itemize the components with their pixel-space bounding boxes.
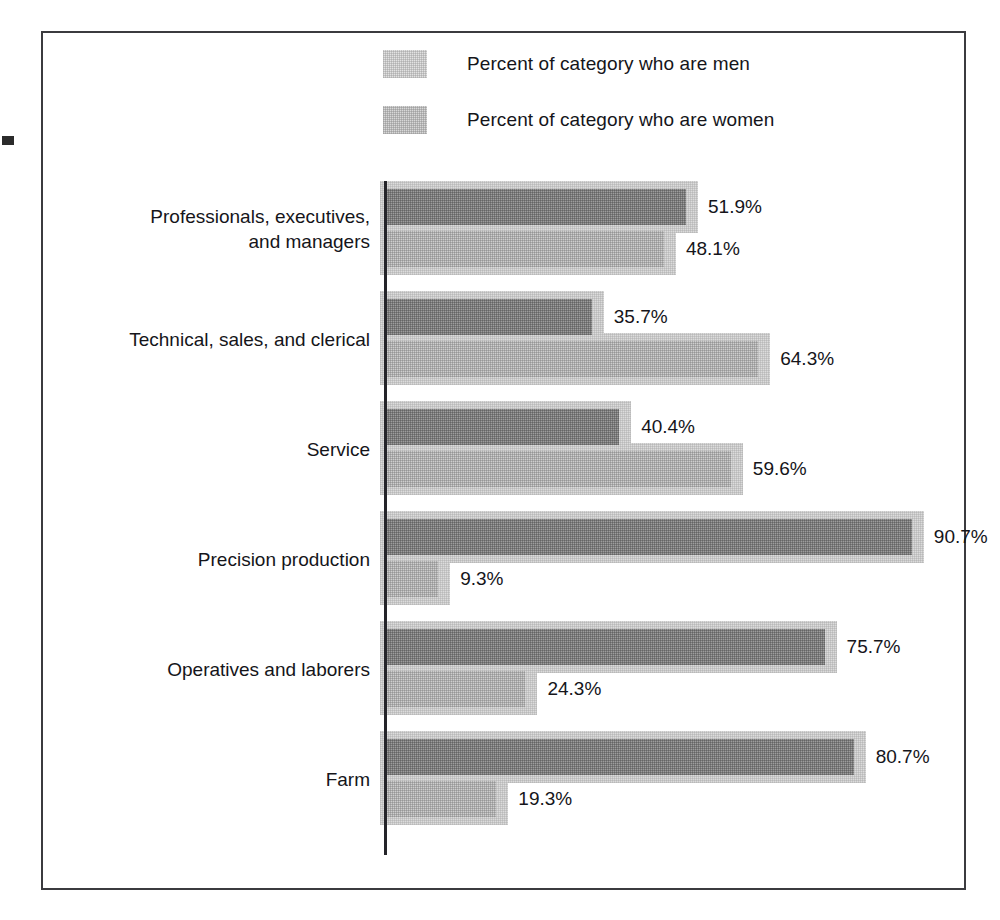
bar-women[interactable] — [384, 781, 496, 817]
category-label: Professionals, executives, and managers — [70, 204, 370, 254]
category-label: Farm — [70, 767, 370, 792]
bar-row-men: 51.9% — [384, 189, 966, 225]
bar-face — [384, 299, 592, 335]
bar-face — [384, 519, 912, 555]
bar-face — [384, 231, 664, 267]
bar-value-label: 19.3% — [518, 788, 572, 810]
bar-value-label: 9.3% — [460, 568, 503, 590]
bar-value-label: 80.7% — [876, 746, 930, 768]
bar-value-label: 24.3% — [547, 678, 601, 700]
bar-row-women: 59.6% — [384, 451, 966, 487]
legend-item-men: Percent of category who are men — [383, 36, 903, 92]
bar-face — [384, 739, 854, 775]
bar-row-men: 40.4% — [384, 409, 966, 445]
bar-men[interactable] — [384, 189, 686, 225]
bar-groups: Professionals, executives, and managers5… — [41, 181, 966, 861]
legend-label-men: Percent of category who are men — [467, 53, 750, 75]
category-axis-line — [384, 181, 387, 855]
bar-face — [384, 451, 731, 487]
bar-row-men: 35.7% — [384, 299, 966, 335]
chart-legend: Percent of category who are men Percent … — [383, 36, 903, 148]
bar-women[interactable] — [384, 671, 525, 707]
bar-value-label: 59.6% — [753, 458, 807, 480]
bar-men[interactable] — [384, 299, 592, 335]
bar-women[interactable] — [384, 231, 664, 267]
bar-value-label: 48.1% — [686, 238, 740, 260]
bar-group: Precision production90.7%9.3% — [41, 517, 966, 601]
bar-value-label: 51.9% — [708, 196, 762, 218]
bar-face — [384, 341, 758, 377]
category-label: Technical, sales, and clerical — [70, 327, 370, 352]
plot-area: Professionals, executives, and managers5… — [41, 181, 966, 861]
bar-face — [384, 561, 438, 597]
bar-women[interactable] — [384, 561, 438, 597]
chart-page: Percent of category who are men Percent … — [0, 0, 1000, 920]
bar-group: Professionals, executives, and managers5… — [41, 187, 966, 271]
bar-group: Operatives and laborers75.7%24.3% — [41, 627, 966, 711]
bar-group: Technical, sales, and clerical35.7%64.3% — [41, 297, 966, 381]
legend-swatch-women-icon — [383, 106, 427, 134]
legend-item-women: Percent of category who are women — [383, 92, 903, 148]
bar-value-label: 35.7% — [614, 306, 668, 328]
bar-face — [384, 189, 686, 225]
bar-value-label: 40.4% — [641, 416, 695, 438]
bar-face — [384, 629, 825, 665]
bar-face — [384, 781, 496, 817]
bar-row-women: 64.3% — [384, 341, 966, 377]
scan-crop-mark — [2, 136, 14, 145]
bar-row-men: 90.7% — [384, 519, 966, 555]
category-label: Service — [70, 437, 370, 462]
bar-face — [384, 671, 525, 707]
bar-row-men: 75.7% — [384, 629, 966, 665]
bar-men[interactable] — [384, 519, 912, 555]
bar-group: Service40.4%59.6% — [41, 407, 966, 491]
category-label: Operatives and laborers — [70, 657, 370, 682]
legend-swatch-men-icon — [383, 50, 427, 78]
bar-men[interactable] — [384, 739, 854, 775]
legend-label-women: Percent of category who are women — [467, 109, 774, 131]
bar-row-women: 48.1% — [384, 231, 966, 267]
category-label: Precision production — [70, 547, 370, 572]
bar-group: Farm80.7%19.3% — [41, 737, 966, 821]
bar-row-men: 80.7% — [384, 739, 966, 775]
bar-women[interactable] — [384, 451, 731, 487]
bar-value-label: 90.7% — [934, 526, 988, 548]
bar-row-women: 19.3% — [384, 781, 966, 817]
bar-face — [384, 409, 619, 445]
bar-value-label: 75.7% — [847, 636, 901, 658]
bar-row-women: 24.3% — [384, 671, 966, 707]
bar-row-women: 9.3% — [384, 561, 966, 597]
bar-men[interactable] — [384, 629, 825, 665]
bar-men[interactable] — [384, 409, 619, 445]
bar-women[interactable] — [384, 341, 758, 377]
bar-value-label: 64.3% — [780, 348, 834, 370]
